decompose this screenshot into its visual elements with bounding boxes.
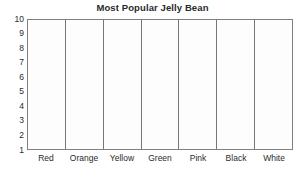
plot-column-green	[142, 20, 180, 149]
x-tick-label: Pink	[179, 152, 217, 166]
x-axis: Red Orange Yellow Green Pink Black White	[27, 152, 293, 166]
plot-column-black	[217, 20, 255, 149]
y-tick-label: 10	[0, 15, 24, 24]
y-tick-label: 5	[0, 87, 24, 96]
x-tick-label: Black	[217, 152, 255, 166]
x-tick-label: Red	[27, 152, 65, 166]
plot-column-yellow	[104, 20, 142, 149]
y-tick-label: 9	[0, 29, 24, 38]
plot-column-orange	[66, 20, 104, 149]
x-tick-label: Green	[141, 152, 179, 166]
plot-column-white	[255, 20, 292, 149]
x-tick-label: Yellow	[103, 152, 141, 166]
plot-area	[27, 19, 293, 150]
y-tick-label: 2	[0, 131, 24, 140]
plot-column-pink	[179, 20, 217, 149]
y-tick-label: 6	[0, 73, 24, 82]
y-tick-label: 4	[0, 102, 24, 111]
y-tick-label: 7	[0, 58, 24, 67]
y-tick-label: 8	[0, 44, 24, 53]
x-tick-label: White	[255, 152, 293, 166]
x-tick-label: Orange	[65, 152, 103, 166]
chart-title: Most Popular Jelly Bean	[0, 2, 305, 14]
chart-figure: Most Popular Jelly Bean 10 9 8 7 6 5 4 3…	[0, 0, 305, 173]
plot-column-red	[28, 20, 66, 149]
y-tick-label: 3	[0, 116, 24, 125]
y-axis: 10 9 8 7 6 5 4 3 2 1	[0, 19, 24, 150]
y-tick-label: 1	[0, 146, 24, 155]
